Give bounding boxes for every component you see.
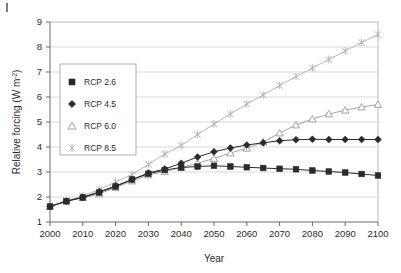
- corner-artifact-mark: [6, 3, 8, 12]
- data-point-marker: [113, 184, 119, 190]
- data-point-marker: [69, 79, 75, 85]
- y-tick-label: 9: [37, 16, 42, 27]
- data-point-marker: [129, 177, 135, 183]
- data-point-marker: [162, 167, 168, 173]
- data-point-marker: [146, 171, 152, 177]
- y-tick-label: 3: [37, 166, 42, 177]
- data-point-marker: [64, 198, 70, 204]
- data-point-marker: [195, 164, 201, 170]
- data-point-marker: [228, 164, 234, 170]
- relative-forcing-line-chart: 123456789 200020102020203020402050206020…: [0, 0, 401, 273]
- data-point-marker: [310, 168, 316, 174]
- legend-item-label: RCP 2.6: [84, 77, 116, 87]
- y-tick-label: 4: [37, 141, 42, 152]
- data-point-marker: [342, 170, 348, 176]
- x-axis-title: Year: [204, 253, 225, 264]
- x-tick-label: 2050: [203, 228, 224, 239]
- y-tick-label: 2: [37, 191, 42, 202]
- y-tick-label: 6: [37, 91, 42, 102]
- x-tick-label: 2010: [72, 228, 93, 239]
- data-point-marker: [326, 169, 332, 175]
- data-point-marker: [80, 195, 86, 201]
- x-tick-label: 2070: [269, 228, 290, 239]
- data-point-marker: [260, 165, 266, 171]
- data-point-marker: [277, 166, 283, 172]
- chart-legend: RCP 2.6RCP 4.5RCP 6.0RCP 8.5: [60, 64, 136, 155]
- y-tick-label: 7: [37, 66, 42, 77]
- x-tick-label: 2040: [171, 228, 192, 239]
- figure-container: 123456789 200020102020203020402050206020…: [0, 0, 401, 273]
- x-tick-label: 2030: [138, 228, 159, 239]
- y-tick-label: 1: [37, 216, 42, 227]
- y-axis-title: Relative forcing (W m-2): [11, 70, 22, 175]
- y-tick-label: 5: [37, 116, 42, 127]
- svg-text:Relative forcing (W m-2): Relative forcing (W m-2): [11, 70, 22, 175]
- data-point-marker: [293, 166, 299, 172]
- x-tick-label: 2060: [236, 228, 257, 239]
- data-point-marker: [178, 165, 184, 171]
- legend-item-label: RCP 8.5: [84, 143, 116, 153]
- x-tick-label: 2090: [335, 228, 356, 239]
- x-tick-label: 2020: [105, 228, 126, 239]
- data-point-marker: [375, 173, 381, 179]
- data-point-marker: [359, 171, 365, 177]
- x-tick-label: 2000: [39, 228, 60, 239]
- data-point-marker: [96, 190, 102, 196]
- data-point-marker: [47, 204, 53, 210]
- x-tick-label: 2100: [367, 228, 388, 239]
- data-point-marker: [244, 164, 250, 170]
- legend-item-label: RCP 6.0: [84, 121, 116, 131]
- legend-item-label: RCP 4.5: [84, 99, 116, 109]
- data-point-marker: [211, 163, 217, 169]
- y-tick-label: 8: [37, 41, 42, 52]
- x-tick-label: 2080: [302, 228, 323, 239]
